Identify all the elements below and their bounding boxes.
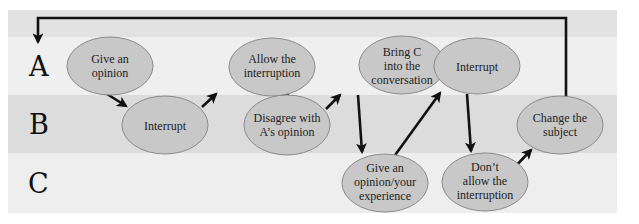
svg-text:opinion: opinion	[92, 66, 129, 80]
svg-text:Change the: Change the	[533, 111, 587, 125]
svg-text:experience: experience	[359, 189, 411, 203]
svg-text:subject: subject	[543, 125, 578, 139]
band-labels: A B C	[28, 51, 49, 199]
svg-text:allow the: allow the	[463, 174, 507, 188]
node-interrupt-a: Interrupt	[434, 38, 520, 94]
svg-text:into the: into the	[384, 59, 420, 73]
svg-text:Interrupt: Interrupt	[456, 60, 499, 74]
node-bring-c-into-conversation: Bring C into the conversation	[359, 36, 445, 94]
svg-text:Interrupt: Interrupt	[144, 119, 187, 133]
svg-text:Disagree with: Disagree with	[254, 111, 321, 125]
svg-text:Allow the: Allow the	[248, 52, 296, 66]
svg-text:Give an: Give an	[91, 52, 129, 66]
node-interrupt-b: Interrupt	[122, 96, 208, 154]
svg-text:Bring C: Bring C	[383, 45, 421, 59]
node-dont-allow-the-interruption: Don’t allow the interruption	[442, 153, 528, 211]
svg-text:interruption: interruption	[244, 66, 301, 80]
node-change-the-subject: Change the subject	[517, 96, 603, 154]
svg-text:conversation: conversation	[371, 73, 432, 87]
node-disagree-with-a: Disagree with A’s opinion	[244, 95, 330, 155]
node-give-opinion-your-experience: Give an opinion/your experience	[342, 154, 428, 212]
band-label-a: A	[28, 51, 49, 82]
svg-text:Give an: Give an	[366, 161, 404, 175]
band-label-c: C	[28, 168, 49, 199]
band-label-b: B	[29, 109, 49, 140]
svg-text:opinion/your: opinion/your	[354, 175, 416, 189]
svg-text:interruption: interruption	[457, 188, 514, 202]
conversation-flow-diagram: A B C Give an opinion Interrupt Allow th…	[0, 0, 639, 224]
node-allow-the-interruption: Allow the interruption	[229, 38, 315, 96]
svg-text:Don’t: Don’t	[471, 160, 499, 174]
svg-text:A’s opinion: A’s opinion	[259, 125, 314, 139]
node-give-an-opinion: Give an opinion	[67, 37, 153, 95]
top-strip	[8, 10, 617, 37]
